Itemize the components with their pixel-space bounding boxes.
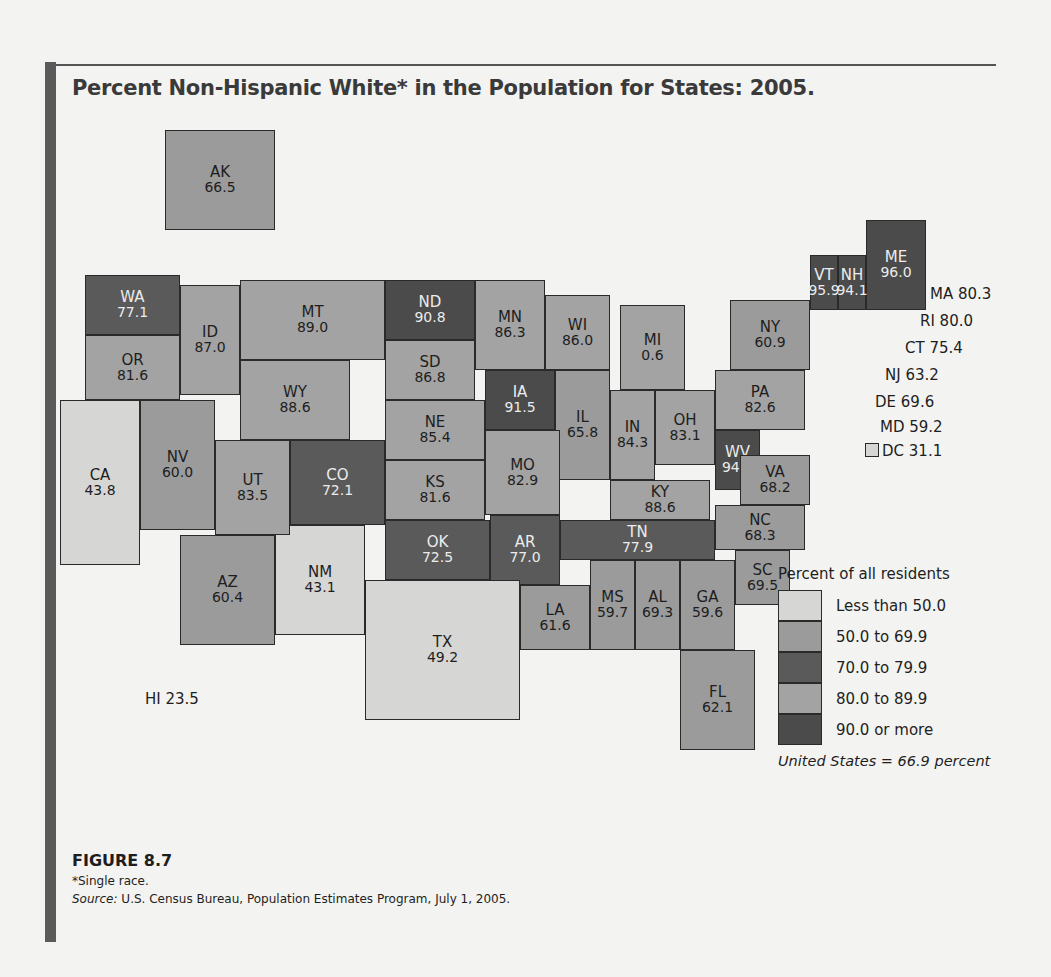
state-value: 81.6 [117, 368, 148, 383]
legend-item: 90.0 or more [778, 714, 1018, 745]
state-nd: ND90.8 [385, 280, 475, 340]
state-tx: TX49.2 [365, 580, 520, 720]
state-abbr: AL [648, 590, 667, 605]
state-abbr: ID [202, 325, 218, 340]
state-abbr: IN [625, 420, 641, 435]
state-abbr: NV [167, 450, 188, 465]
figure-title: Percent Non-Hispanic White* in the Popul… [72, 76, 815, 100]
state-ar: AR77.0 [490, 515, 560, 585]
state-ia: IA91.5 [485, 370, 555, 430]
state-value: 59.6 [692, 605, 723, 620]
state-value: 82.9 [507, 473, 538, 488]
state-value: 72.5 [422, 550, 453, 565]
state-id: ID87.0 [180, 285, 240, 395]
state-ne: NE85.4 [385, 400, 485, 460]
state-value: 90.8 [414, 310, 445, 325]
state-or: OR81.6 [85, 335, 180, 400]
state-value: 68.2 [759, 480, 790, 495]
legend-label: Less than 50.0 [836, 597, 946, 615]
legend-title: Percent of all residents [778, 565, 1018, 584]
legend-item: Less than 50.0 [778, 590, 1018, 621]
legend-label: 50.0 to 69.9 [836, 628, 927, 646]
state-abbr: IA [513, 385, 528, 400]
state-ks: KS81.6 [385, 460, 485, 520]
callout-de: DE 69.6 [875, 393, 934, 411]
source-line: Source: U.S. Census Bureau, Population E… [72, 892, 510, 906]
state-al: AL69.3 [635, 560, 680, 650]
legend-item: 80.0 to 89.9 [778, 683, 1018, 714]
state-il: IL65.8 [555, 370, 610, 480]
source-prefix: Source: [72, 892, 118, 906]
state-abbr: SC [753, 563, 773, 578]
legend-label: 80.0 to 89.9 [836, 690, 927, 708]
state-value: 72.1 [322, 483, 353, 498]
state-value: 82.6 [744, 400, 775, 415]
state-abbr: KS [425, 475, 444, 490]
state-value: 81.6 [419, 490, 450, 505]
state-nv: NV60.0 [140, 400, 215, 530]
state-abbr: NM [308, 565, 332, 580]
state-abbr: SD [419, 355, 440, 370]
state-abbr: MI [644, 333, 661, 348]
state-mo: MO82.9 [485, 430, 560, 515]
top-rule [56, 64, 996, 66]
state-value: 86.0 [562, 333, 593, 348]
legend-swatch [778, 683, 822, 714]
callout-ct: CT 75.4 [905, 339, 963, 357]
state-in: IN84.3 [610, 390, 655, 480]
legend-label: 70.0 to 79.9 [836, 659, 927, 677]
state-tn: TN77.9 [560, 520, 715, 560]
state-value: 83.1 [669, 428, 700, 443]
state-value: 85.4 [419, 430, 450, 445]
state-abbr: WA [120, 290, 144, 305]
state-fl: FL62.1 [680, 650, 755, 750]
state-abbr: MO [510, 458, 535, 473]
legend-swatch [778, 714, 822, 745]
legend-rows: Less than 50.050.0 to 69.970.0 to 79.980… [778, 590, 1018, 745]
state-abbr: OK [427, 535, 449, 550]
state-value: 96.0 [880, 265, 911, 280]
legend-swatch [778, 590, 822, 621]
callout-dc: DC 31.1 [865, 442, 942, 460]
state-abbr: IL [576, 410, 589, 425]
state-abbr: LA [546, 603, 565, 618]
legend-swatch [778, 621, 822, 652]
state-abbr: NH [841, 268, 864, 283]
state-abbr: CO [326, 468, 348, 483]
state-value: 88.6 [644, 500, 675, 515]
state-abbr: CA [90, 468, 111, 483]
state-wy: WY88.6 [240, 360, 350, 440]
state-ga: GA59.6 [680, 560, 735, 650]
legend-label: 90.0 or more [836, 721, 933, 739]
dc-swatch [865, 443, 879, 457]
legend-swatch [778, 652, 822, 683]
state-value: 0.6 [641, 348, 663, 363]
state-abbr: VA [765, 465, 785, 480]
state-pa: PA82.6 [715, 370, 805, 430]
state-ny: NY60.9 [730, 300, 810, 370]
state-abbr: ND [419, 295, 442, 310]
callout-hi: HI 23.5 [145, 690, 199, 708]
state-mn: MN86.3 [475, 280, 545, 370]
state-abbr: OH [673, 413, 696, 428]
state-value: 69.5 [747, 578, 778, 593]
dc-label: DC 31.1 [882, 442, 942, 460]
state-abbr: TN [627, 525, 647, 540]
state-value: 62.1 [702, 700, 733, 715]
decorative-side-bar [45, 62, 56, 942]
state-mt: MT89.0 [240, 280, 385, 360]
state-value: 94.1 [836, 283, 867, 298]
state-abbr: ME [885, 250, 907, 265]
state-oh: OH83.1 [655, 390, 715, 465]
state-value: 95.9 [808, 283, 839, 298]
state-value: 89.0 [297, 320, 328, 335]
state-value: 91.5 [504, 400, 535, 415]
callout-ri: RI 80.0 [920, 312, 973, 330]
state-ky: KY88.6 [610, 480, 710, 520]
callout-nj: NJ 63.2 [885, 366, 939, 384]
state-value: 59.7 [597, 605, 628, 620]
state-value: 86.8 [414, 370, 445, 385]
state-abbr: PA [751, 385, 769, 400]
footnote: *Single race. [72, 874, 149, 888]
state-vt: VT95.9 [810, 255, 838, 310]
